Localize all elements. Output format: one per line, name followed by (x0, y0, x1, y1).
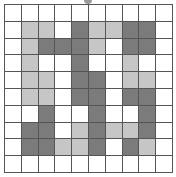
grid-cell-r8-c7[interactable] (123, 139, 139, 155)
grid-cell-r3-c4[interactable] (72, 55, 88, 71)
grid-cell-r3-c6[interactable] (106, 55, 122, 71)
grid-cell-r5-c6[interactable] (106, 89, 122, 105)
grid-cell-r2-c4[interactable] (72, 39, 88, 55)
grid-cell-r1-c1[interactable] (22, 22, 38, 38)
grid-cell-r7-c5[interactable] (89, 123, 105, 139)
grid-cell-r3-c0[interactable] (5, 55, 21, 71)
grid-cell-r0-c6[interactable] (106, 5, 122, 21)
grid-cell-r2-c1[interactable] (22, 39, 38, 55)
grid-cell-r8-c9[interactable] (156, 139, 172, 155)
grid-cell-r6-c9[interactable] (156, 106, 172, 122)
grid-cell-r5-c5[interactable] (89, 89, 105, 105)
grid-cell-r3-c9[interactable] (156, 55, 172, 71)
grid-cell-r7-c7[interactable] (123, 123, 139, 139)
grid-cell-r0-c7[interactable] (123, 5, 139, 21)
grid-cell-r7-c9[interactable] (156, 123, 172, 139)
grid-cell-r7-c2[interactable] (39, 123, 55, 139)
grid-cell-r0-c5[interactable] (89, 5, 105, 21)
grid-cell-r2-c5[interactable] (89, 39, 105, 55)
grid-cell-r1-c2[interactable] (39, 22, 55, 38)
grid-cell-r8-c3[interactable] (55, 139, 71, 155)
grid-cell-r4-c8[interactable] (139, 72, 155, 88)
grid-cell-r6-c3[interactable] (55, 106, 71, 122)
grid-cell-r4-c9[interactable] (156, 72, 172, 88)
grid-cell-r9-c2[interactable] (39, 156, 55, 172)
grid-cell-r9-c3[interactable] (55, 156, 71, 172)
grid-cell-r8-c6[interactable] (106, 139, 122, 155)
grid-cell-r8-c2[interactable] (39, 139, 55, 155)
grid-cell-r4-c0[interactable] (5, 72, 21, 88)
grid-cell-r4-c1[interactable] (22, 72, 38, 88)
grid-cell-r1-c7[interactable] (123, 22, 139, 38)
grid-cell-r1-c6[interactable] (106, 22, 122, 38)
grid-cell-r7-c4[interactable] (72, 123, 88, 139)
grid-cell-r3-c1[interactable] (22, 55, 38, 71)
grid-cell-r7-c3[interactable] (55, 123, 71, 139)
grid-cell-r0-c0[interactable] (5, 5, 21, 21)
grid-cell-r4-c3[interactable] (55, 72, 71, 88)
grid-cell-r6-c0[interactable] (5, 106, 21, 122)
grid-cell-r2-c8[interactable] (139, 39, 155, 55)
grid-cell-r3-c5[interactable] (89, 55, 105, 71)
grid-cell-r5-c3[interactable] (55, 89, 71, 105)
grid-cell-r1-c9[interactable] (156, 22, 172, 38)
grid-cell-r9-c6[interactable] (106, 156, 122, 172)
grid-cell-r1-c3[interactable] (55, 22, 71, 38)
grid-cell-r5-c1[interactable] (22, 89, 38, 105)
grid-cell-r8-c5[interactable] (89, 139, 105, 155)
grid-cell-r0-c9[interactable] (156, 5, 172, 21)
grid-cell-r5-c7[interactable] (123, 89, 139, 105)
grid-cell-r6-c6[interactable] (106, 106, 122, 122)
grid-cell-r9-c1[interactable] (22, 156, 38, 172)
grid-cell-r2-c7[interactable] (123, 39, 139, 55)
grid-cell-r9-c5[interactable] (89, 156, 105, 172)
grid-cell-r9-c8[interactable] (139, 156, 155, 172)
grid-cell-r3-c8[interactable] (139, 55, 155, 71)
grid-cell-r9-c4[interactable] (72, 156, 88, 172)
grid-cell-r5-c8[interactable] (139, 89, 155, 105)
grid-cell-r2-c2[interactable] (39, 39, 55, 55)
grid-cell-r6-c8[interactable] (139, 106, 155, 122)
grid-cell-r7-c1[interactable] (22, 123, 38, 139)
grid-cell-r4-c2[interactable] (39, 72, 55, 88)
grid-cell-r2-c0[interactable] (5, 39, 21, 55)
grid-cell-r5-c9[interactable] (156, 89, 172, 105)
grid-cell-r6-c2[interactable] (39, 106, 55, 122)
grid-cell-r6-c1[interactable] (22, 106, 38, 122)
grid-cell-r4-c4[interactable] (72, 72, 88, 88)
grid-cell-r9-c7[interactable] (123, 156, 139, 172)
grid-cell-r8-c8[interactable] (139, 139, 155, 155)
grid-cell-r0-c2[interactable] (39, 5, 55, 21)
grid-cell-r7-c6[interactable] (106, 123, 122, 139)
grid-cell-r7-c0[interactable] (5, 123, 21, 139)
grid-cell-r0-c8[interactable] (139, 5, 155, 21)
grid-cell-r5-c2[interactable] (39, 89, 55, 105)
grid-cell-r9-c0[interactable] (5, 156, 21, 172)
grid-cell-r0-c3[interactable] (55, 5, 71, 21)
grid-cell-r0-c4[interactable] (72, 5, 88, 21)
grid-cell-r8-c1[interactable] (22, 139, 38, 155)
grid-cell-r1-c5[interactable] (89, 22, 105, 38)
grid-cell-r2-c9[interactable] (156, 39, 172, 55)
grid-cell-r4-c5[interactable] (89, 72, 105, 88)
grid-cell-r6-c5[interactable] (89, 106, 105, 122)
grid-cell-r2-c6[interactable] (106, 39, 122, 55)
grid-cell-r6-c4[interactable] (72, 106, 88, 122)
grid-cell-r7-c8[interactable] (139, 123, 155, 139)
grid-cell-r9-c9[interactable] (156, 156, 172, 172)
grid-cell-r3-c2[interactable] (39, 55, 55, 71)
grid-cell-r3-c3[interactable] (55, 55, 71, 71)
grid-cell-r4-c7[interactable] (123, 72, 139, 88)
grid-cell-r4-c6[interactable] (106, 72, 122, 88)
grid-cell-r8-c0[interactable] (5, 139, 21, 155)
grid-cell-r0-c1[interactable] (22, 5, 38, 21)
grid-cell-r5-c4[interactable] (72, 89, 88, 105)
grid-cell-r6-c7[interactable] (123, 106, 139, 122)
grid-cell-r5-c0[interactable] (5, 89, 21, 105)
grid-cell-r8-c4[interactable] (72, 139, 88, 155)
grid-cell-r1-c0[interactable] (5, 22, 21, 38)
grid-cell-r2-c3[interactable] (55, 39, 71, 55)
grid-cell-r1-c8[interactable] (139, 22, 155, 38)
grid-cell-r3-c7[interactable] (123, 55, 139, 71)
grid-cell-r1-c4[interactable] (72, 22, 88, 38)
